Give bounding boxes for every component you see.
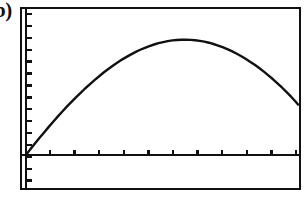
figure-container: b) [0, 0, 305, 201]
plot-graphic [0, 0, 305, 201]
plot-frame [21, 8, 300, 189]
data-curve [26, 40, 298, 155]
